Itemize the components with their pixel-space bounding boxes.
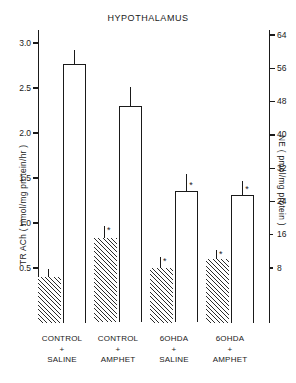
bar-ne [119,106,142,323]
category-label-line: AMPHET [197,355,263,366]
left-axis-tick-label: 1.0 [1,218,31,228]
left-axis-tick-label: 1.5 [1,173,31,183]
right-axis-tick-label: 32 [277,163,286,173]
chart-figure: HYPOTHALAMUS TR ACh ( nmol/mg protein/hr… [0,0,296,383]
significance-asterisk-ach: * [163,258,167,264]
right-axis-tick-label: 40 [277,129,286,139]
right-axis-tick-label: 64 [277,30,286,40]
left-axis-tick-label: 0.5 [1,263,31,273]
right-axis-tick-label: 48 [277,96,286,106]
category-label-line: 6OHDA [197,334,263,345]
left-axis-tick [33,132,39,133]
right-axis-tick-label: 24 [277,196,286,206]
right-axis-tick-label: 16 [277,229,286,239]
left-axis-title-text: TR ACh ( nmol/mg protein/hr ) [18,145,28,265]
bar-ne [175,191,198,322]
right-axis-tick [269,68,275,69]
right-axis-tick [269,168,275,169]
bar-ne [231,195,254,322]
right-axis-tick [269,134,275,135]
category-label: 6OHDA+AMPHET [197,334,263,366]
bar-ach [206,259,229,323]
left-axis-tick [33,87,39,88]
significance-asterisk-ne: * [189,182,193,188]
left-axis-tick [33,177,39,178]
significance-asterisk-ne: * [245,186,249,192]
right-axis-tick [269,234,273,235]
right-axis-tick [269,201,275,202]
error-bar-ne [130,87,131,106]
left-axis-tick [33,42,39,43]
error-bar-ne [74,50,75,65]
significance-asterisk-ach: * [107,227,111,233]
left-axis-tick-label: 3.0 [1,38,31,48]
error-bar-ach [104,226,105,239]
error-bar-ach [48,269,49,277]
left-axis-title: TR ACh ( nmol/mg protein/hr ) [18,145,28,265]
bar-ach [94,238,117,322]
right-axis-tick [269,101,275,102]
error-bar-ach [160,257,161,268]
error-bar-ne [186,174,187,191]
bar-ne [63,64,86,322]
left-axis-tick-label: 2.5 [1,83,31,93]
left-axis-tick-label: 2.0 [1,128,31,138]
error-bar-ne [242,181,243,196]
left-axis-tick [33,267,39,268]
bar-ach [150,268,173,323]
chart-title: HYPOTHALAMUS [0,13,296,23]
left-axis-tick [33,222,39,223]
right-axis-line [269,30,270,323]
significance-asterisk-ach: * [219,251,223,257]
category-label-line: + [197,345,263,356]
right-axis-title-text: NE ( pmol/mg protein ) [277,135,287,226]
right-axis-tick-label: 8 [277,263,282,273]
right-axis-tick [269,34,275,35]
error-bar-ach [216,250,217,259]
right-axis-title: NE ( pmol/mg protein ) [277,135,287,226]
right-axis-tick [269,267,273,268]
bar-ach [38,277,61,323]
right-axis-tick-label: 56 [277,63,286,73]
